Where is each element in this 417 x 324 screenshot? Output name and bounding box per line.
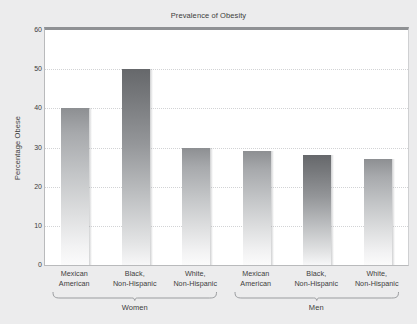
y-tick-label-50: 50 <box>20 65 42 72</box>
category-label: White,Non-Hispanic <box>165 269 226 288</box>
bar <box>243 151 271 265</box>
category-label-line2: Non-Hispanic <box>105 279 166 289</box>
category-label: MexicanAmerican <box>226 269 287 288</box>
bar <box>122 69 150 265</box>
category-label-line1: Mexican <box>226 269 287 279</box>
category-label: White,Non-Hispanic <box>347 269 408 288</box>
category-label-line2: Non-Hispanic <box>165 279 226 289</box>
obesity-prevalence-chart: Prevalence of Obesity Percentage Obese 0… <box>0 0 417 324</box>
category-label: MexicanAmerican <box>44 269 105 288</box>
category-label: Black,Non-Hispanic <box>286 269 347 288</box>
category-label-line2: American <box>44 279 105 289</box>
bar-shadow <box>210 148 213 266</box>
gridline-20 <box>45 187 408 188</box>
category-label: Black,Non-Hispanic <box>105 269 166 288</box>
y-tick-label-30: 30 <box>20 143 42 150</box>
y-tick-label-10: 10 <box>20 221 42 228</box>
y-axis-tick-labels: 0102030405060 <box>16 27 42 266</box>
category-label-line1: Mexican <box>44 269 105 279</box>
y-tick-label-40: 40 <box>20 104 42 111</box>
bar-shadow <box>331 155 334 265</box>
gridline-50 <box>45 69 408 70</box>
gridline-10 <box>45 226 408 227</box>
gridline-30 <box>45 148 408 149</box>
category-label-line2: Non-Hispanic <box>347 279 408 289</box>
category-label-line2: Non-Hispanic <box>286 279 347 289</box>
bar <box>182 148 210 266</box>
category-label-line1: Black, <box>286 269 347 279</box>
category-label-line1: White, <box>165 269 226 279</box>
plot-inner <box>45 30 408 265</box>
chart-title: Prevalence of Obesity <box>0 11 417 20</box>
category-label-line1: Black, <box>105 269 166 279</box>
bar <box>303 155 331 265</box>
bar <box>61 108 89 265</box>
bar <box>364 159 392 265</box>
category-label-line1: White, <box>347 269 408 279</box>
group-label: Women <box>52 303 218 312</box>
plot-area <box>44 27 409 266</box>
y-tick-label-20: 20 <box>20 182 42 189</box>
group-labels: WomenMen <box>44 292 409 324</box>
group-bracket <box>234 292 400 301</box>
group-label: Men <box>234 303 400 312</box>
group-bracket <box>52 292 218 301</box>
bar-shadow <box>150 69 153 265</box>
bar-shadow <box>89 108 92 265</box>
category-label-line2: American <box>226 279 287 289</box>
gridline-40 <box>45 108 408 109</box>
y-tick-label-0: 0 <box>20 261 42 268</box>
y-tick-label-60: 60 <box>20 26 42 33</box>
bar-shadow <box>392 159 395 265</box>
bar-shadow <box>271 151 274 265</box>
